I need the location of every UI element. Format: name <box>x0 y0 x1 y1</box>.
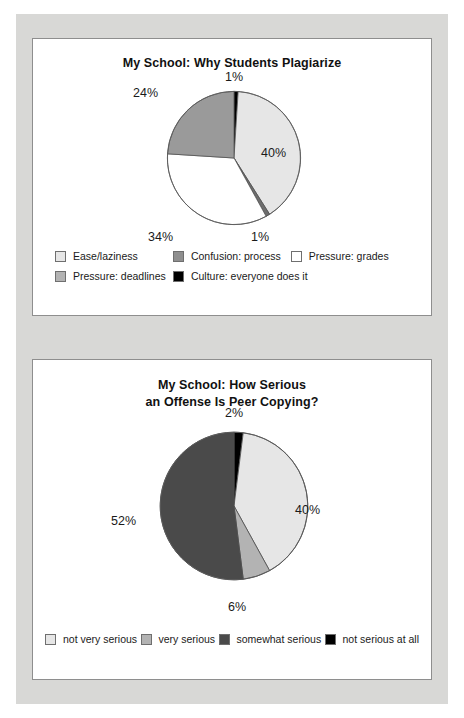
pie-2-label-not-serious-at-all: 2% <box>225 406 243 420</box>
legend-label-very-serious: very serious <box>159 634 216 645</box>
legend-item-not-serious-at-all[interactable]: not serious at all <box>325 634 419 645</box>
legend-item-very-serious[interactable]: very serious <box>141 634 216 645</box>
legend-row-1: Ease/laziness Confusion: process Pressur… <box>55 251 409 262</box>
pie-1-label-grades: 34% <box>148 230 173 244</box>
chart-title-2-line1: My School: How Serious <box>158 378 306 392</box>
legend-label-somewhat-serious: somewhat serious <box>237 634 322 645</box>
chart-panel-why-plagiarize: My School: Why Students Plagiarize <box>32 38 432 316</box>
pie-chart-2 <box>152 424 316 588</box>
legend-item-pressure-deadlines[interactable]: Pressure: deadlines <box>55 271 173 282</box>
pie-chart-2-area: 2% 40% 6% 52% <box>33 410 431 625</box>
pie-1-label-deadlines: 24% <box>133 86 158 100</box>
pie-1-label-ease: 40% <box>261 146 286 160</box>
pie-1-label-confusion: 1% <box>251 230 269 244</box>
chart-panel-peer-copying: My School: How Serious an Offense Is Pee… <box>32 359 432 680</box>
legend-chart-2: not very serious very serious somewhat s… <box>33 634 431 645</box>
legend-item-confusion-process[interactable]: Confusion: process <box>173 251 291 262</box>
legend-swatch-icon-grades <box>291 251 302 262</box>
pie-2-label-somewhat-serious: 52% <box>111 514 136 528</box>
chart-title-2: My School: How Serious an Offense Is Pee… <box>33 360 431 410</box>
legend-label-ease: Ease/laziness <box>73 251 138 262</box>
legend-label-not-serious-at-all: not serious at all <box>343 634 419 645</box>
legend-row-2: Pressure: deadlines Culture: everyone do… <box>55 271 409 282</box>
legend-swatch-icon-not-serious-at-all <box>325 634 336 645</box>
legend-label-culture: Culture: everyone does it <box>191 271 308 282</box>
legend-swatch-icon-not-very-serious <box>45 634 56 645</box>
legend-label-grades: Pressure: grades <box>309 251 389 262</box>
pie-2-label-very-serious: 6% <box>228 600 246 614</box>
legend-label-confusion: Confusion: process <box>191 251 281 262</box>
legend-swatch-icon-confusion <box>173 251 184 262</box>
pie-2-label-not-very-serious: 40% <box>295 503 320 517</box>
legend-item-culture[interactable]: Culture: everyone does it <box>173 271 329 282</box>
legend-swatch-icon-very-serious <box>141 634 152 645</box>
legend-swatch-icon-culture <box>173 271 184 282</box>
legend-swatch-icon-somewhat-serious <box>219 634 230 645</box>
legend-item-ease-laziness[interactable]: Ease/laziness <box>55 251 173 262</box>
chart-title-1-line1: My School: Why Students Plagiarize <box>123 56 342 70</box>
pie-chart-1-area: 1% 40% 1% 34% 24% <box>33 72 431 250</box>
legend-chart-1: Ease/laziness Confusion: process Pressur… <box>33 251 431 291</box>
legend-item-pressure-grades[interactable]: Pressure: grades <box>291 251 409 262</box>
chart-title-1: My School: Why Students Plagiarize <box>33 39 431 72</box>
legend-row-3: not very serious very serious somewhat s… <box>45 634 419 645</box>
pie-2-slice-somewhat-serious <box>160 432 243 580</box>
legend-item-not-very-serious[interactable]: not very serious <box>45 634 137 645</box>
legend-label-deadlines: Pressure: deadlines <box>73 271 166 282</box>
legend-item-somewhat-serious[interactable]: somewhat serious <box>219 634 322 645</box>
legend-swatch-icon-ease <box>55 251 66 262</box>
legend-label-not-very-serious: not very serious <box>63 634 137 645</box>
pie-1-label-culture: 1% <box>225 70 243 84</box>
page-sheet: My School: Why Students Plagiarize <box>16 14 448 704</box>
pie-1-slice-deadlines <box>168 91 234 158</box>
legend-swatch-icon-deadlines <box>55 271 66 282</box>
